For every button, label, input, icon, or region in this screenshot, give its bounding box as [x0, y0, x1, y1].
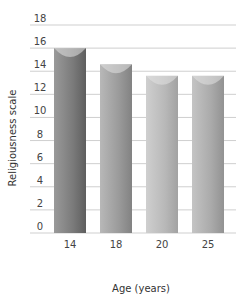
y-tick-label: 4: [37, 175, 43, 186]
bar: [192, 76, 224, 233]
y-tick-label: 12: [34, 82, 47, 93]
x-axis-label: Age (years): [112, 283, 170, 294]
x-tick-label: 14: [64, 239, 77, 250]
bar: [146, 76, 178, 233]
bar: [100, 64, 132, 233]
y-tick-label: 16: [34, 36, 47, 47]
y-tick-label: 6: [37, 152, 43, 163]
y-tick-label: 8: [37, 129, 43, 140]
y-tick-label: 2: [37, 198, 43, 209]
y-tick-label: 0: [37, 221, 43, 232]
y-axis-label: Religiousness scale: [7, 90, 18, 187]
y-tick-label: 10: [34, 105, 47, 116]
y-axis-ticks: 024681012141618: [34, 13, 47, 232]
x-axis-ticks: 14182025: [64, 239, 215, 250]
bar: [54, 48, 86, 233]
x-tick-label: 18: [110, 239, 123, 250]
x-tick-label: 20: [156, 239, 169, 250]
y-tick-label: 18: [34, 13, 47, 24]
x-tick-label: 25: [202, 239, 215, 250]
bar-chart: 024681012141618 14182025 Age (years) Rel…: [0, 0, 247, 306]
y-tick-label: 14: [34, 59, 47, 70]
